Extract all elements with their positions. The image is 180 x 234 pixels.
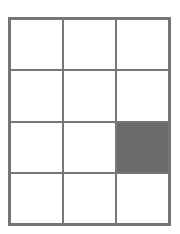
grid-cell — [64, 20, 115, 69]
grid-cell — [11, 123, 62, 172]
grid-cell — [11, 20, 62, 69]
grid-cell — [11, 71, 62, 120]
grid-cell — [64, 174, 115, 223]
grid-cell — [117, 174, 168, 223]
grid-cell — [64, 71, 115, 120]
grid-cell — [11, 174, 62, 223]
grid-cell-filled — [117, 123, 168, 172]
grid-cell — [117, 20, 168, 69]
grid-cell — [117, 71, 168, 120]
grid-diagram — [8, 17, 171, 226]
grid-cell — [64, 123, 115, 172]
